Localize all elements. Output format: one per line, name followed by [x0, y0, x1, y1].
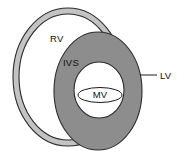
heart-cross-section-diagram: RV IVS MV LV: [0, 0, 185, 158]
ivs-label: IVS: [63, 57, 79, 68]
rv-label: RV: [50, 33, 64, 44]
lv-label: LV: [160, 70, 172, 81]
mv-label: MV: [93, 89, 108, 100]
heart-anatomy-svg: RV IVS MV LV: [0, 0, 185, 158]
left-ventricle-shape: [0, 0, 185, 158]
